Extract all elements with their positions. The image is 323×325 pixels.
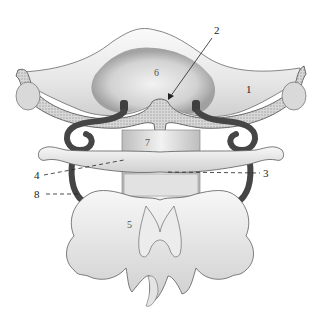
label-7: 7 <box>145 138 150 148</box>
c3-spinous-tip <box>146 276 158 306</box>
anatomy-illustration <box>0 0 323 325</box>
label-2: 2 <box>214 25 220 36</box>
label-1: 1 <box>246 84 252 95</box>
right-mastoid-region <box>282 82 306 110</box>
label-4: 4 <box>34 170 40 181</box>
label-6: 6 <box>154 68 159 78</box>
anatomical-figure: 1 2 3 4 5 6 7 8 <box>0 0 323 325</box>
left-mastoid-region <box>16 82 40 110</box>
label-5: 5 <box>127 220 132 230</box>
label-8: 8 <box>34 189 40 200</box>
axis-vertebra <box>67 191 254 303</box>
label-3: 3 <box>263 168 269 179</box>
ligamentum-region <box>124 174 198 196</box>
